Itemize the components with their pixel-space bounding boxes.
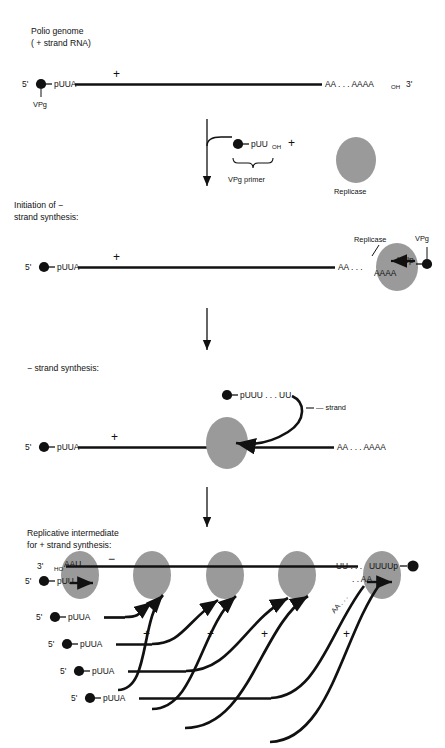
stage1-caption-line2: ( + strand RNA) — [31, 38, 91, 49]
nascent-plus-strand-curve — [185, 596, 308, 728]
stage3-plus-sign: + — [111, 431, 118, 443]
nascent-strand-1-sequence: pUUA — [68, 612, 90, 622]
stage1-right-sequence-subscript: OH — [391, 83, 400, 90]
vpg-primer-brace — [233, 158, 273, 168]
vpg-protein-dot — [407, 560, 418, 571]
replicase-ellipse — [133, 551, 171, 599]
stage4-caption-line1: Replicative intermediate — [27, 528, 119, 539]
figure-canvas: Polio genome ( + strand RNA) 5' pUUA + A… — [0, 0, 445, 748]
stage1-vpg-label: VPg — [33, 100, 47, 109]
nascent-strand-1-plus: + — [143, 628, 150, 640]
nascent-strand-3-plus: + — [261, 628, 268, 640]
replicase-ellipse — [376, 243, 418, 291]
stage2-initiation-strand — [39, 243, 432, 291]
nascent-plus-strand-curve — [270, 584, 380, 742]
stage2-caption-line2: strand synthesis: — [14, 212, 78, 223]
stage3-minus-strand-synthesis — [39, 390, 334, 469]
stage1-five-prime-label: 5' — [22, 79, 28, 89]
stage4-template-right-sequence: UU . . . — [336, 561, 362, 571]
vpg-protein-dot — [74, 666, 84, 676]
vpg-primer-brace-label: VPg primer — [228, 175, 265, 184]
nascent-strand-3-five-prime: 5' — [60, 666, 66, 676]
nascent-strand-3-sequence: pUUA — [92, 666, 114, 676]
stage1-caption-line1: Polio genome — [31, 26, 84, 37]
nascent-strand-4-plus: + — [343, 628, 350, 640]
vpg-primer-dot — [233, 139, 243, 149]
stage3-five-prime-label: 5' — [25, 442, 31, 452]
vpg-protein-dot — [39, 576, 49, 586]
nascent-strand-2-five-prime: 5' — [48, 639, 54, 649]
stage1-plus-sign: + — [113, 68, 120, 80]
stage2-template-sequence: AAAA — [374, 268, 396, 278]
nascent-strand-2-plus: + — [207, 628, 214, 640]
stage4-three-prime-label: 3' — [37, 561, 43, 571]
stage2-nascent-sequence: UUp — [397, 255, 414, 265]
nascent-strand-2-sequence: pUUA — [80, 639, 102, 649]
stage3-right-sequence: AA . . . AAAA — [337, 442, 386, 452]
stage4-caption-line2: for + strand synthesis: — [27, 540, 111, 551]
stage3-caption: − strand synthesis: — [27, 363, 99, 374]
stage1-right-sequence: AA . . . AAAA — [325, 79, 374, 89]
replicase-label: Replicase — [334, 187, 366, 196]
stage2-vpg-label: VPg — [415, 234, 429, 243]
stage1-genome-strand — [36, 79, 322, 97]
stage4-template-right-sequence2: UUUUp — [369, 561, 398, 571]
stage2-plus-sign: + — [113, 251, 120, 263]
stage4-nascent-right-sequence: . . AA — [352, 574, 372, 584]
stage4-ho-label: HO — [54, 565, 63, 572]
stage2-right-sequence: AA . . . — [338, 262, 363, 272]
stage4-five-prime-label: 5' — [25, 576, 31, 586]
vpg-primer-dot — [422, 259, 432, 269]
stage3-left-sequence: pUUA — [57, 442, 79, 452]
vpg-protein-dot — [85, 693, 95, 703]
nascent-strand-1-five-prime: 5' — [36, 612, 42, 622]
stage4-nascent-left-sequence: pUU — [57, 576, 74, 586]
minus-strand-label: — strand — [316, 403, 346, 412]
vpg-protein-dot — [50, 612, 60, 622]
stage2-left-sequence: pUUA — [57, 262, 79, 272]
replicase-ellipse — [336, 137, 376, 183]
replicase-ellipse — [278, 551, 316, 599]
vpg-minus-strand-dot — [222, 390, 232, 400]
stage2-replicase-label: Replicase — [354, 235, 386, 244]
vpg-protein-dot — [39, 442, 49, 452]
stage4-minus-sign: − — [108, 553, 115, 565]
stage4-template-left-sequence: AAU — [64, 559, 81, 569]
vpg-primer-sequence: pUU — [251, 139, 268, 149]
nascent-strand-4-five-prime: 5' — [71, 693, 77, 703]
vpg-protein-dot — [62, 639, 72, 649]
diagram-vector-layer — [0, 0, 445, 748]
stage1-left-sequence: pUUA — [54, 79, 76, 89]
stage1-three-prime-label: 3' — [406, 79, 412, 89]
vpg-protein-dot — [39, 262, 49, 272]
vpg-primer-subscript: OH — [272, 143, 281, 150]
stage1b-plus-sign: + — [288, 137, 295, 149]
nascent-plus-strand-curve — [152, 596, 236, 709]
replicase-ellipse — [206, 551, 244, 599]
vpg-protein-dot — [36, 79, 46, 89]
minus-strand-sequence: pUUU . . . UU — [240, 390, 291, 400]
stage2-five-prime-label: 5' — [25, 262, 31, 272]
nascent-strand-4-sequence: pUUA — [103, 693, 125, 703]
stage2-caption-line1: Initiation of − — [14, 200, 63, 211]
